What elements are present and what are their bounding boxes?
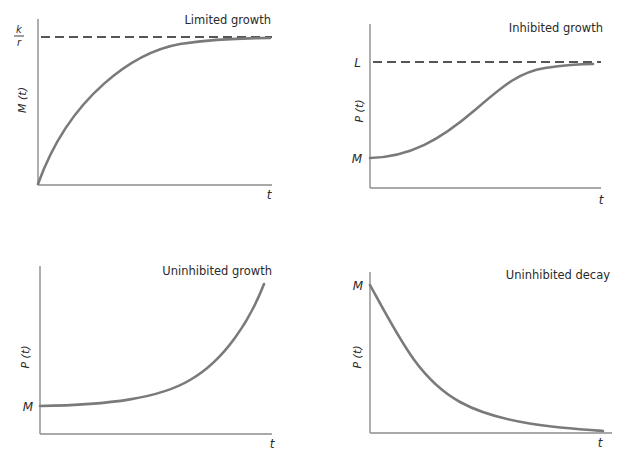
panel-title: Limited growth: [184, 13, 271, 27]
asymptote-denominator: r: [17, 37, 22, 48]
asymptote-numerator: k: [16, 24, 23, 35]
panel-title: Uninhibited growth: [162, 264, 272, 278]
y-axis-label: P (t): [19, 345, 32, 368]
panel-uninhibited-growth: Uninhibited growth M P (t) t: [19, 264, 276, 451]
uninhibited-decay-curve: [370, 285, 603, 431]
x-axis-label: t: [267, 188, 273, 202]
uninhibited-growth-curve: [40, 284, 264, 406]
x-axis-label: t: [599, 193, 605, 207]
initial-value-label: M: [352, 152, 363, 166]
limited-growth-curve: [38, 38, 270, 184]
y-axis-label: M (t): [16, 87, 29, 113]
x-axis-label: t: [270, 437, 276, 451]
y-axis-label: P (t): [353, 99, 366, 122]
y-axis-label: P (t): [351, 345, 364, 368]
initial-value-label: M: [23, 400, 34, 414]
initial-value-label: M: [353, 279, 364, 293]
panel-limited-growth: Limited growth k r M (t) t: [14, 13, 273, 202]
upper-limit-label: L: [354, 56, 361, 70]
panel-title: Inhibited growth: [509, 21, 603, 35]
x-axis-label: t: [598, 436, 604, 450]
panel-inhibited-growth: Inhibited growth L M P (t) t: [352, 21, 605, 207]
growth-models-figure: Limited growth k r M (t) t Inhibited gro…: [0, 0, 633, 460]
panel-title: Uninhibited decay: [506, 268, 610, 282]
panel-uninhibited-decay: Uninhibited decay M P (t) t: [351, 268, 612, 450]
inhibited-growth-curve: [370, 64, 593, 158]
